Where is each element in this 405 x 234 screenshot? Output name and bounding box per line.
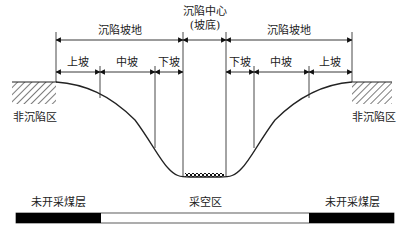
left-upper-slope-label: 上坡 (67, 57, 89, 69)
coal-seam-bar (16, 213, 394, 223)
right-stable-ground (352, 82, 392, 104)
left-non-subsidence-label: 非沉陷区 (13, 112, 57, 124)
right-zone-label: 沉陷坡地 (267, 25, 311, 37)
right-unmined-seam (309, 213, 394, 223)
left-zone-label: 沉陷坡地 (98, 25, 142, 37)
right-lower-slope-label: 下坡 (229, 57, 251, 69)
left-unmined-seam-label: 未开采煤层 (31, 197, 86, 209)
left-stable-ground (12, 82, 57, 104)
center-label: 沉陷中心 (183, 6, 227, 18)
right-non-subsidence-label: 非沉陷区 (352, 112, 396, 124)
center-sublabel: (坡底) (190, 20, 221, 32)
right-middle-slope-label: 中坡 (270, 57, 292, 69)
left-middle-slope-label: 中坡 (116, 57, 138, 69)
goaf-label: 采空区 (189, 197, 222, 209)
left-lower-slope-label: 下坡 (158, 57, 180, 69)
right-unmined-seam-label: 未开采煤层 (325, 197, 380, 209)
boundary-lines (56, 32, 352, 176)
left-unmined-seam (16, 213, 101, 223)
right-upper-slope-label: 上坡 (319, 57, 341, 69)
